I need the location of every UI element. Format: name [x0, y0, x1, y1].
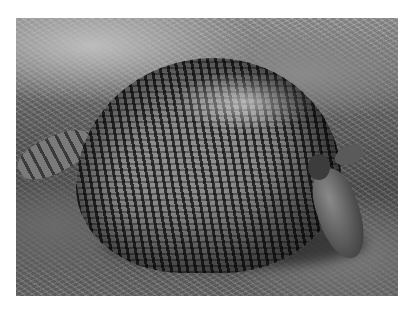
- armadillo-ear-left: [308, 154, 330, 180]
- armadillo-photo: [16, 18, 398, 296]
- armadillo-shell: [76, 58, 341, 273]
